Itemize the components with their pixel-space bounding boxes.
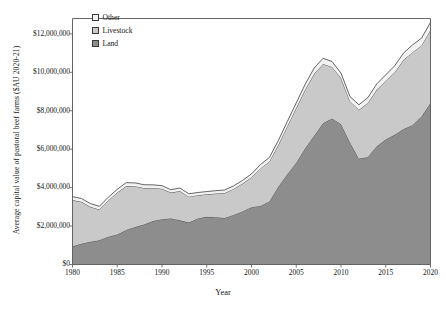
chart-figure: Average capital value of pastoral beef f…	[0, 0, 446, 310]
y-axis-tick-label: $2,000,000	[6, 222, 70, 229]
x-axis-tick-label: 2000	[232, 268, 272, 277]
legend-swatch-land-icon	[92, 40, 99, 47]
y-axis-tick-label: $8,000,000	[6, 107, 70, 114]
y-axis-tick-labels: $0$2,000,000$4,000,000$6,000,000$8,000,0…	[4, 0, 70, 310]
x-axis-tick-label: 1980	[53, 268, 93, 277]
legend-label-land: Land	[103, 40, 119, 48]
y-axis-tick-label: $4,000,000	[6, 183, 70, 190]
x-axis-tick-label: 1995	[187, 268, 227, 277]
y-axis-tick-label: $10,000,000	[6, 68, 70, 75]
x-axis-tick-label: 2005	[276, 268, 316, 277]
x-axis-tick-label: 2015	[366, 268, 406, 277]
legend-swatch-other-icon	[92, 14, 99, 21]
x-axis-title: Year	[0, 288, 446, 297]
y-axis-tick-label: $12,000,000	[6, 30, 70, 37]
x-axis-tick-label: 1985	[97, 268, 137, 277]
legend-item-land: Land	[92, 40, 132, 48]
legend-label-livestock: Livestock	[103, 27, 133, 35]
x-axis-tick-label: 2020	[411, 268, 446, 277]
legend-label-other: Other	[103, 14, 120, 22]
y-axis-tick-label: $6,000,000	[6, 145, 70, 152]
legend-item-livestock: Livestock	[92, 27, 132, 35]
legend-swatch-livestock-icon	[92, 27, 99, 34]
chart-legend: Other Livestock Land	[92, 14, 132, 48]
y-axis-tick-label: $0	[6, 260, 70, 267]
x-axis-tick-label: 2010	[321, 268, 361, 277]
legend-item-other: Other	[92, 14, 132, 22]
x-axis-tick-labels: 198019851990199520002005201020152020	[0, 268, 446, 282]
x-axis-tick-label: 1990	[142, 268, 182, 277]
